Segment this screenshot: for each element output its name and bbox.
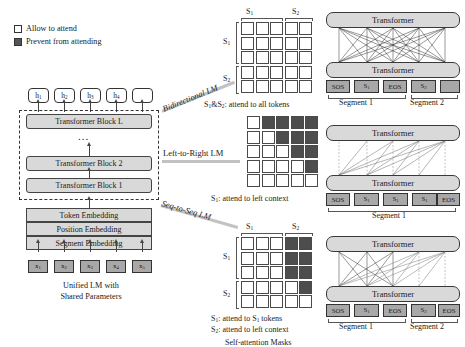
upper-transformer-3: Transformer <box>326 236 460 252</box>
mask-cell <box>299 266 312 279</box>
mask3-col-label-s1: S1 <box>246 222 253 231</box>
mask-cell <box>247 131 260 144</box>
mask2-caption: S1: attend to left context <box>211 194 288 203</box>
input-token-x2: x2 <box>54 260 74 273</box>
mask2-grid <box>247 116 318 187</box>
mask-cell <box>285 66 298 79</box>
arrow-block1-to-block2 <box>89 171 90 178</box>
mask-cell <box>276 145 289 158</box>
mask-cell <box>305 131 318 144</box>
mask-cell <box>256 22 269 35</box>
legend-allow-label: Allow to attend <box>26 24 77 33</box>
mask-cell <box>262 160 275 173</box>
token-2-s1-a: S1 <box>354 193 379 206</box>
mask-cell <box>276 160 289 173</box>
input-token-x1: x1 <box>28 260 48 273</box>
mask-cell <box>247 145 260 158</box>
upper-transformer-1: Transformer <box>326 12 460 28</box>
bidirectional-mask: S1 S2 S1 S2 S1&S2: attend to all tokens <box>241 22 312 93</box>
mask-cell <box>285 237 298 250</box>
mask3-col-bracket-s2 <box>285 233 313 236</box>
mask-cell <box>291 116 304 129</box>
mask1-col-bracket-s1 <box>241 18 283 21</box>
mask-cell <box>241 266 254 279</box>
segment-label-2a: Segment 1 <box>372 211 406 220</box>
mask3-row-label-s1: S1 <box>223 252 230 261</box>
mask-cell <box>285 266 298 279</box>
left-to-right-transformer-stack: Transformer Transformer SOS S1 S1 S1 EO <box>326 125 460 221</box>
mask-cell <box>270 22 283 35</box>
token-3-eos-b: EOS <box>438 304 460 317</box>
mask-cell <box>247 160 260 173</box>
segment-label-3a: Segment 1 <box>339 322 373 331</box>
transformer-block-L: Transformer Block L <box>26 114 152 129</box>
token-1-eos: EOS <box>383 80 407 93</box>
token-2-s1-c: S1 <box>412 193 437 206</box>
mask3-row-bracket-s1 <box>236 237 239 279</box>
mask3-caption-1: S1: attend to S1 tokens <box>211 314 282 323</box>
segment-label-3b: Segment 2 <box>410 322 444 331</box>
mask-cell <box>291 160 304 173</box>
unified-lm-stack: h1 h2 h3 h4 Transformer Block L ... Tran… <box>8 88 178 333</box>
mask3-caption-2: S2: attend to left context <box>211 325 288 334</box>
token-2-eos: EOS <box>437 193 460 206</box>
input-token-x3: x3 <box>80 260 100 273</box>
token-3-s1: S1 <box>354 304 379 317</box>
block-ellipsis: ... <box>78 130 89 142</box>
mask-cell <box>256 281 269 294</box>
input-token-x5: x5 <box>132 260 152 273</box>
mask-cell <box>285 295 298 308</box>
segment-label-1b: Segment 2 <box>410 98 444 107</box>
mask-cell <box>262 116 275 129</box>
mask-cell <box>241 295 254 308</box>
mask-cell <box>262 174 275 187</box>
segment-label-1a: Segment 1 <box>339 98 373 107</box>
mask-cell <box>291 145 304 158</box>
mask-cell <box>276 174 289 187</box>
mask-cell <box>241 37 254 50</box>
bidirectional-transformer-stack: Transformer Transformer SOS S <box>326 12 460 108</box>
masks-section-caption: Self-attention Masks <box>225 338 291 347</box>
token-2-sos: SOS <box>326 193 350 206</box>
transformer-block-1: Transformer Block 1 <box>26 178 152 193</box>
mask-cell <box>241 80 254 93</box>
mask1-row-bracket-s2 <box>236 66 239 94</box>
left-to-right-mask: S1: attend to left context <box>247 116 318 187</box>
seq-to-seq-transformer-stack: Transformer Transformer SOS <box>326 236 460 334</box>
arrow-embeddings-to-block1 <box>89 200 90 208</box>
mask-cell <box>270 66 283 79</box>
seq-to-seq-mask: S1 S2 S1 S2 S1: attend to S1 tokens S2: … <box>241 237 312 308</box>
mask-cell <box>299 281 312 294</box>
mask-cell <box>256 237 269 250</box>
mask-cell <box>305 116 318 129</box>
mask-cell <box>305 174 318 187</box>
mask-cell <box>299 66 312 79</box>
arrow-x5-up <box>142 243 143 252</box>
mask-cell <box>285 80 298 93</box>
mask-cell <box>285 22 298 35</box>
mask3-row-bracket-s2 <box>236 281 239 309</box>
mask-cell <box>256 80 269 93</box>
mask-cell <box>305 160 318 173</box>
lower-transformer-2: Transformer <box>326 175 460 191</box>
mask-cell <box>256 66 269 79</box>
mask-cell <box>256 266 269 279</box>
mask-cell <box>262 131 275 144</box>
mask-cell <box>247 116 260 129</box>
mask-cell <box>256 295 269 308</box>
mask1-col-label-s2: S2 <box>292 7 299 16</box>
mask-cell <box>285 252 298 265</box>
mask1-row-label-s2: S2 <box>223 74 230 83</box>
mask3-grid <box>241 237 312 308</box>
mask-cell <box>241 22 254 35</box>
mask-cell <box>291 174 304 187</box>
mask-cell <box>276 131 289 144</box>
arrow-x4-up <box>116 243 117 252</box>
mask1-row-bracket-s1 <box>236 22 239 64</box>
arrow-x2-up <box>64 243 65 252</box>
mask-cell <box>285 37 298 50</box>
mask-cell <box>299 51 312 64</box>
mask3-col-label-s2: S2 <box>292 222 299 231</box>
mask-cell <box>241 281 254 294</box>
lower-transformer-1: Transformer <box>326 62 460 78</box>
